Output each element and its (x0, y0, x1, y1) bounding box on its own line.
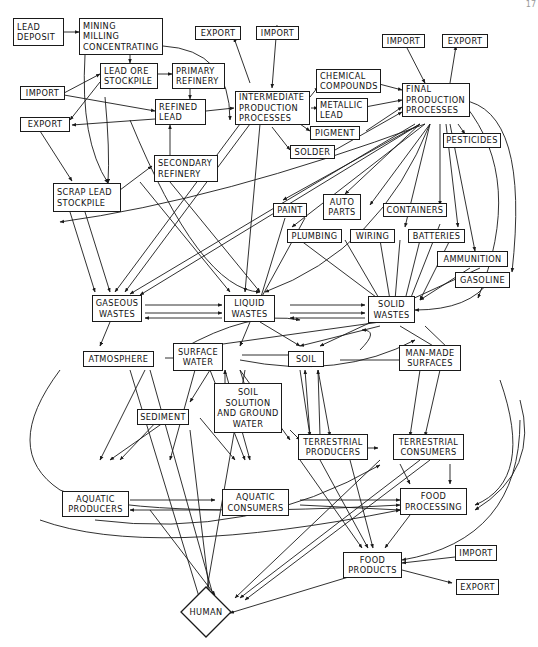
label-line: EXPORT (201, 28, 236, 39)
label-line: MAN-MADE (405, 348, 454, 359)
node-gaseous-wastes: GASEOUS WASTES (92, 295, 142, 322)
node-auto-parts: AUTO PARTS (323, 194, 361, 220)
label-line: PROCESSES (239, 113, 291, 124)
label-line: EXPORT (460, 582, 495, 593)
node-gasoline: GASOLINE (455, 272, 510, 288)
node-terrestrial-producers: TERRESTRIAL PRODUCERS (298, 434, 368, 460)
node-solid-wastes: SOLID WASTES (368, 296, 415, 323)
label-line: MILLING (83, 31, 119, 42)
node-liquid-wastes: LIQUID WASTES (224, 295, 275, 322)
node-plumbing: PLUMBING (287, 229, 342, 243)
label-line: HUMAN (180, 607, 232, 617)
node-sediment: SEDIMENT (137, 409, 189, 425)
label-line: IMPORT (26, 88, 59, 99)
label-line: IMPORT (459, 548, 492, 559)
label-line: MINING (83, 21, 116, 32)
label-line: LIQUID (234, 298, 265, 309)
label-line: COMPOUNDS (320, 81, 378, 92)
label-line: BATTERIES (413, 231, 461, 242)
label-line: TERRESTRIAL (399, 437, 459, 448)
label-line: CONSUMERS (227, 503, 283, 514)
node-soil-solution-ground-water: SOIL SOLUTION AND GROUND WATER (214, 383, 282, 433)
label-line: SOIL (296, 354, 316, 365)
label-line: PESTICIDES (446, 135, 498, 146)
label-line: SOIL (238, 387, 258, 398)
node-mining-milling-concentrating: MINING MILLING CONCENTRATING (79, 18, 163, 55)
node-export-food: EXPORT (456, 579, 499, 595)
label-line: INTERMEDIATE (239, 92, 304, 103)
label-line: AQUATIC (236, 492, 275, 503)
label-line: AQUATIC (76, 494, 115, 505)
label-line: PIGMENT (315, 128, 355, 139)
label-line: REFINERY (176, 76, 219, 87)
label-line: WASTES (373, 310, 409, 321)
label-line: LEAD (320, 110, 343, 121)
label-line: PRODUCTION (406, 95, 465, 106)
label-line: SOLDER (295, 147, 331, 158)
label-line: CONSUMERS (400, 447, 456, 458)
node-chemical-compounds: CHEMICAL COMPOUNDS (316, 69, 381, 93)
label-line: LEAD (159, 112, 182, 123)
label-line: WATER (233, 419, 263, 430)
label-line: METALLIC (320, 100, 363, 111)
node-man-made-surfaces: MAN-MADE SURFACES (399, 345, 461, 371)
label-line: SOLUTION (226, 398, 271, 409)
node-paint: PAINT (273, 203, 307, 217)
label-line: PRODUCERS (306, 447, 361, 458)
node-aquatic-producers: AQUATIC PRODUCERS (62, 491, 129, 517)
node-ammunition: AMMUNITION (437, 251, 508, 267)
node-lead-deposit: LEAD DEPOSIT (13, 18, 64, 46)
label-line: PRODUCERS (68, 504, 123, 515)
label-line: PRODUCTION (239, 103, 298, 114)
node-export-intermediate: EXPORT (195, 26, 241, 40)
label-line: ATMOSPHERE (89, 354, 149, 365)
node-batteries: BATTERIES (408, 229, 465, 243)
node-human: HUMAN (180, 586, 232, 638)
node-terrestrial-consumers: TERRESTRIAL CONSUMERS (393, 434, 464, 460)
label-line: WASTES (231, 309, 267, 320)
node-export-left: EXPORT (20, 117, 70, 132)
label-line: SURFACES (407, 358, 453, 369)
label-line: WATER (183, 357, 213, 368)
label-line: CHEMICAL (320, 71, 366, 82)
label-line: REFINERY (158, 169, 201, 180)
node-atmosphere: ATMOSPHERE (83, 351, 154, 367)
label-line: CONCENTRATING (83, 42, 159, 53)
label-line: SURFACE (178, 347, 218, 358)
label-line: PROCESSING (405, 502, 462, 513)
label-line: IMPORT (261, 28, 294, 39)
label-line: AND GROUND (217, 408, 279, 419)
node-refined-lead: REFINED LEAD (155, 99, 206, 125)
node-export-final: EXPORT (442, 34, 488, 48)
label-line: TERRESTRIAL (303, 437, 363, 448)
node-import-final: IMPORT (382, 34, 425, 48)
node-final-production-processes: FINAL PRODUCTION PROCESSES (402, 83, 470, 117)
label-line: STOCKPILE (104, 76, 152, 87)
label-line: SOLID (378, 299, 405, 310)
label-line: PARTS (328, 207, 355, 218)
label-line: PROCESSES (406, 105, 458, 116)
node-lead-ore-stockpile: LEAD ORE STOCKPILE (100, 63, 158, 89)
node-import-food: IMPORT (455, 545, 497, 561)
label-line: PRODUCTS (348, 565, 396, 576)
node-metallic-lead: METALLIC LEAD (316, 98, 368, 122)
label-line: AMMUNITION (443, 254, 501, 265)
label-line: STOCKPILE (57, 198, 105, 209)
node-solder: SOLDER (290, 145, 335, 159)
node-wiring: WIRING (350, 229, 395, 243)
label-line: SECONDARY (158, 158, 212, 169)
label-line: LEAD ORE (104, 66, 149, 77)
label-line: GASEOUS (96, 298, 139, 309)
node-import-intermediate: IMPORT (256, 26, 299, 40)
label-line: IMPORT (387, 36, 420, 47)
lead-flow-diagram: 17 (0, 0, 538, 647)
label-line: PLUMBING (292, 231, 338, 242)
label-line: PRIMARY (176, 66, 215, 77)
label-line: PAINT (277, 205, 303, 216)
label-line: WASTES (99, 309, 135, 320)
label-line: SCRAP LEAD (57, 187, 112, 198)
node-import-left: IMPORT (20, 86, 65, 100)
label-line: SEDIMENT (140, 412, 186, 423)
label-line: FOOD (421, 491, 447, 502)
label-line: FOOD (360, 555, 386, 566)
